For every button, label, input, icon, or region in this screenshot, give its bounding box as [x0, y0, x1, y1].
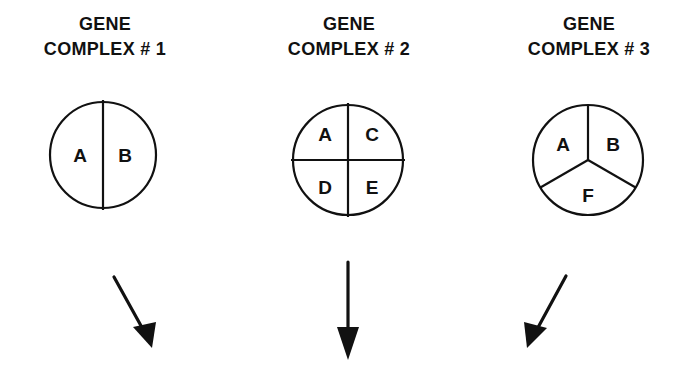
complex-2-sector-label-E: E: [366, 177, 379, 198]
complex-2-sector-label-C: C: [365, 124, 379, 145]
complex-2-arrow-head: [337, 327, 359, 360]
complex-2-arrow: [337, 262, 359, 360]
complex-3-divider-lower-left: [540, 160, 588, 188]
complex-3-divider-lower-right: [588, 160, 636, 188]
complex-2-sector-label-A: A: [318, 124, 332, 145]
diagram-canvas: GENE COMPLEX # 1 GENE COMPLEX # 2 GENE C…: [0, 0, 698, 388]
complex-3-sector-label-A: A: [556, 134, 570, 155]
complex-1-circle-group: A B: [50, 100, 156, 210]
complex-1-arrow-head: [133, 322, 156, 348]
complex-1-arrow-shaft: [114, 277, 145, 333]
complex-2-circle-group: A C D E: [291, 103, 405, 217]
complex-3-arrow-head: [524, 322, 547, 348]
complex-1-arrow: [114, 277, 156, 348]
complex-3-circle-group: A B F: [533, 105, 643, 215]
complex-2-sector-label-D: D: [318, 177, 332, 198]
complex-3-sector-label-F: F: [582, 185, 594, 206]
complex-1-sector-label-A: A: [73, 145, 87, 166]
complex-3-sector-label-B: B: [606, 134, 620, 155]
complex-3-arrow: [524, 276, 566, 348]
diagram-graphics: A B A C D E A B F: [0, 0, 698, 388]
complex-1-sector-label-B: B: [118, 145, 132, 166]
complex-3-arrow-shaft: [535, 276, 566, 333]
